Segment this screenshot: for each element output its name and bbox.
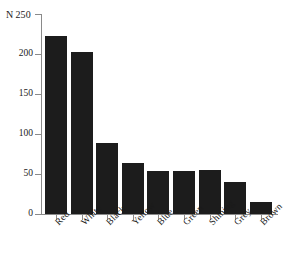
bar <box>45 36 67 214</box>
y-axis-tick <box>35 214 41 215</box>
y-axis-tick-label: 200 <box>0 49 33 59</box>
y-axis-tick-label: 0 <box>0 209 33 219</box>
y-axis-top-tick-label: 250 <box>15 9 31 20</box>
bars-group <box>41 14 278 214</box>
y-axis-label: N250 <box>6 9 31 20</box>
y-axis-tick-label: 100 <box>0 129 33 139</box>
bar-chart: N250 200150100500 RedWhiteBlackYellowBlu… <box>0 0 285 261</box>
bar <box>71 52 93 214</box>
bar <box>122 163 144 214</box>
y-axis-tick-label: 50 <box>0 169 33 179</box>
y-axis-name: N <box>6 9 13 20</box>
x-axis-category-labels: RedWhiteBlackYellowBlueGreenShiningGreyB… <box>41 220 278 261</box>
bar <box>96 143 118 214</box>
y-axis-tick-label: 150 <box>0 89 33 99</box>
